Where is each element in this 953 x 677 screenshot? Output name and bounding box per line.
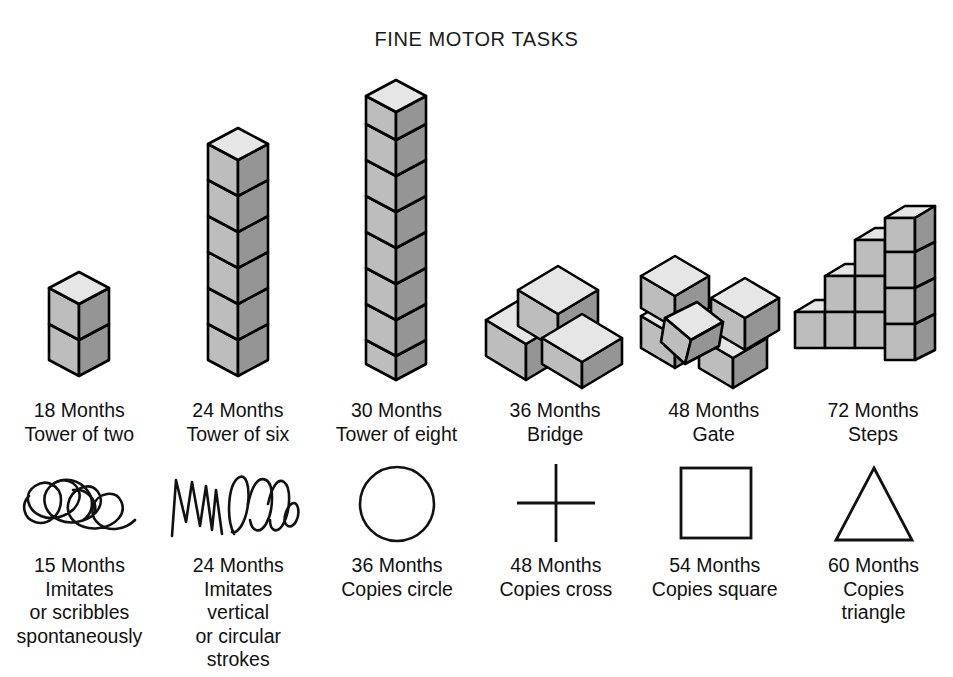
circle-illustration	[351, 458, 443, 546]
page-title: FINE MOTOR TASKS	[0, 28, 953, 51]
vertical-and-circular-strokes-illustration	[164, 458, 312, 546]
drawing-task-triangle: 60 Months Copies triangle	[794, 458, 953, 673]
scribble-illustration	[13, 458, 145, 546]
steps-illustration	[793, 74, 953, 392]
tower-of-eight-illustration	[348, 74, 444, 392]
drawing-task-caption: 24 Months Imitates vertical or circular …	[193, 554, 284, 672]
drawing-task-caption: 60 Months Copies triangle	[828, 554, 919, 625]
block-tasks-row: 18 Months Tower of two	[0, 66, 953, 446]
block-task-caption: 24 Months Tower of six	[186, 399, 289, 446]
drawing-task-caption: 15 Months Imitates or scribbles spontane…	[17, 554, 143, 648]
block-task-caption: 18 Months Tower of two	[25, 399, 134, 446]
block-task-caption: 72 Months Steps	[827, 399, 918, 446]
drawing-task-caption: 36 Months Copies circle	[341, 554, 453, 601]
block-task-tower-of-eight: 30 Months Tower of eight	[317, 66, 476, 446]
tower-of-two-illustration	[31, 74, 127, 392]
block-task-caption: 30 Months Tower of eight	[336, 399, 457, 446]
square-illustration	[669, 458, 761, 546]
block-task-bridge: 36 Months Bridge	[476, 66, 635, 446]
block-task-tower-of-two: 18 Months Tower of two	[0, 66, 159, 446]
drawing-tasks-row: 15 Months Imitates or scribbles spontane…	[0, 458, 953, 673]
drawing-task-strokes: 24 Months Imitates vertical or circular …	[159, 458, 318, 673]
drawing-task-cross: 48 Months Copies cross	[476, 458, 635, 673]
bridge-illustration	[480, 74, 630, 392]
block-task-tower-of-six: 24 Months Tower of six	[159, 66, 318, 446]
drawing-task-scribble: 15 Months Imitates or scribbles spontane…	[0, 458, 159, 673]
fine-motor-tasks-figure: FINE MOTOR TASKS 18 Months Towe	[0, 0, 953, 677]
drawing-task-caption: 54 Months Copies square	[652, 554, 778, 601]
tower-of-six-illustration	[190, 74, 286, 392]
block-task-steps: 72 Months Steps	[793, 66, 953, 446]
block-task-gate: 48 Months Gate	[634, 66, 793, 446]
drawing-task-circle: 36 Months Copies circle	[318, 458, 477, 673]
block-task-caption: 36 Months Bridge	[510, 399, 601, 446]
gate-illustration	[635, 74, 793, 392]
cross-illustration	[510, 458, 602, 546]
drawing-task-caption: 48 Months Copies cross	[500, 554, 613, 601]
block-task-caption: 48 Months Gate	[668, 399, 759, 446]
triangle-illustration	[824, 458, 924, 546]
drawing-task-square: 54 Months Copies square	[635, 458, 794, 673]
